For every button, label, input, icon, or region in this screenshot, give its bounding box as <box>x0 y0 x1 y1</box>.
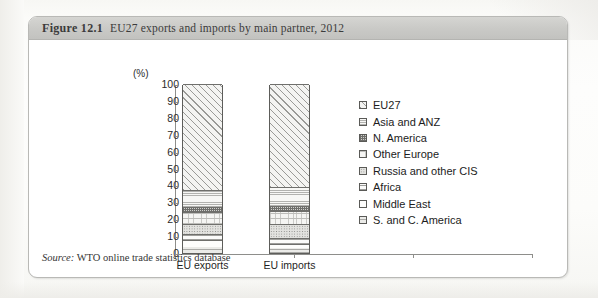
legend-swatch-icon <box>359 200 367 208</box>
stacked-bar <box>182 85 223 254</box>
y-tick-mark <box>175 153 179 154</box>
chart-plot-area: (%) 0102030405060708090100 EU exportsEU … <box>29 40 568 278</box>
y-tick-label: 20 <box>133 214 179 225</box>
y-tick-label: 90 <box>133 96 179 107</box>
legend-item[interactable]: Middle East <box>359 195 478 211</box>
bar-segment <box>183 190 222 207</box>
x-axis-label-imports: EU imports <box>245 259 335 271</box>
legend-swatch-icon <box>359 134 367 142</box>
legend-swatch-icon <box>359 150 367 158</box>
legend-item-label: EU27 <box>373 99 401 111</box>
y-axis-title: (%) <box>133 68 149 79</box>
bar-segment <box>270 84 309 187</box>
figure-caption: Figure 12.1EU27 exports and imports by m… <box>42 21 344 36</box>
legend-item-label: Other Europe <box>373 148 439 160</box>
scan-shadow-bottom <box>0 282 598 298</box>
bar-segment <box>270 224 309 238</box>
y-tick-label: 50 <box>133 164 179 175</box>
y-tick-mark <box>175 237 179 238</box>
legend-item-label: S. and C. America <box>373 214 462 226</box>
stacked-bar <box>269 85 310 254</box>
legend-item-label: N. America <box>373 132 427 144</box>
source-prefix: Source: <box>42 252 74 263</box>
y-tick-mark <box>175 203 179 204</box>
legend-item[interactable]: N. America <box>359 130 478 146</box>
scan-shadow-left <box>0 0 24 298</box>
bar-segment <box>183 224 222 234</box>
y-tick-mark <box>175 170 179 171</box>
figure-caption-text: EU27 exports and imports by main partner… <box>110 22 344 34</box>
y-tick-mark <box>175 85 179 86</box>
bar-segment <box>270 238 309 244</box>
bar-segment <box>270 206 309 211</box>
y-tick-label: 60 <box>133 147 179 158</box>
legend-item-label: Africa <box>373 181 401 193</box>
legend-item-label: Russia and other CIS <box>373 165 478 177</box>
legend-swatch-icon <box>359 167 367 175</box>
y-tick-mark <box>175 102 179 103</box>
chart-legend: EU27Asia and ANZN. AmericaOther EuropeRu… <box>359 97 478 228</box>
legend-item[interactable]: Africa <box>359 179 478 195</box>
source-note: Source: WTO online trade statistics data… <box>42 252 230 263</box>
legend-swatch-icon <box>359 183 367 191</box>
bar-segment <box>270 244 309 248</box>
legend-swatch-icon <box>359 216 367 224</box>
x-tick-mark <box>294 254 295 258</box>
bar-segment <box>270 211 309 225</box>
y-tick-label: 40 <box>133 180 179 191</box>
legend-item[interactable]: Asia and ANZ <box>359 113 478 129</box>
bar-segment <box>183 84 222 190</box>
x-tick-mark <box>413 254 414 258</box>
y-tick-label: 100 <box>133 79 179 90</box>
bar-segment <box>183 240 222 247</box>
y-tick-mark <box>175 186 179 187</box>
legend-item-label: Middle East <box>373 198 430 210</box>
bar-segment <box>270 248 309 253</box>
figure-card: Figure 12.1EU27 exports and imports by m… <box>28 16 568 278</box>
x-tick-mark <box>532 254 533 258</box>
bar-segment <box>183 212 222 224</box>
bar-segment <box>270 187 309 206</box>
legend-item[interactable]: Russia and other CIS <box>359 163 478 179</box>
figure-number: Figure 12.1 <box>42 21 103 35</box>
legend-swatch-icon <box>359 101 367 109</box>
legend-item[interactable]: Other Europe <box>359 146 478 162</box>
legend-item[interactable]: EU27 <box>359 97 478 113</box>
legend-item-label: Asia and ANZ <box>373 116 440 128</box>
y-tick-mark <box>175 136 179 137</box>
y-tick-label: 10 <box>133 231 179 242</box>
legend-swatch-icon <box>359 118 367 126</box>
bar-segment <box>183 234 222 240</box>
y-tick-mark <box>175 119 179 120</box>
legend-item[interactable]: S. and C. America <box>359 212 478 228</box>
y-tick-label: 30 <box>133 197 179 208</box>
source-text: WTO online trade statistics database <box>77 252 231 263</box>
y-tick-label: 70 <box>133 130 179 141</box>
y-tick-label: 80 <box>133 113 179 124</box>
y-tick-mark <box>175 220 179 221</box>
bar-segment <box>183 207 222 212</box>
